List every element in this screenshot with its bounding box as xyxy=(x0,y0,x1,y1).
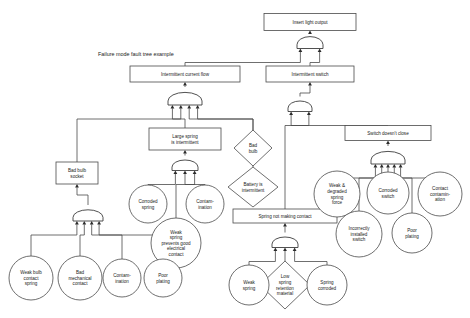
logic-gate-g-isw[interactable] xyxy=(288,101,312,112)
svg-text:Corroded: Corroded xyxy=(378,188,398,193)
fault-node-lsi[interactable]: Large springis intermittent xyxy=(149,128,221,150)
svg-text:Intermittent switch: Intermittent switch xyxy=(291,72,328,77)
arrow-head xyxy=(273,248,277,251)
and-gate-shape xyxy=(288,101,312,112)
fault-node-contactcont[interactable]: Contactcontamin-ation xyxy=(418,172,462,216)
arrow-head xyxy=(183,150,187,153)
arrow-head xyxy=(318,49,322,52)
arrow-head xyxy=(399,164,403,167)
edge-weakspr2-to-g-snmc xyxy=(249,248,277,266)
lsi-label: Large springis intermittent xyxy=(171,134,199,145)
fault-node-icf[interactable]: Intermittent current flow xyxy=(130,66,240,82)
svg-text:Incorrectly: Incorrectly xyxy=(348,226,370,231)
edge-bmc-to-g-bbs xyxy=(80,221,86,256)
svg-text:Intermittent current flow: Intermittent current flow xyxy=(161,72,210,77)
arrow-head xyxy=(392,164,396,167)
weakspr2-label: Weakspring xyxy=(243,280,256,291)
arrow-head xyxy=(183,82,187,85)
fault-node-sdc[interactable]: Switch doesn't close xyxy=(345,126,431,141)
fault-node-wdsf[interactable]: Weak &degradedspringforce xyxy=(314,171,360,217)
logic-gate-g-icf[interactable] xyxy=(168,92,202,105)
svg-text:corroded: corroded xyxy=(318,286,337,291)
edge-corrspring-to-g-lsi xyxy=(148,171,177,186)
fault-node-bbs[interactable]: Bad bulbsocket xyxy=(56,162,98,184)
svg-text:Battery is: Battery is xyxy=(243,182,263,187)
fault-node-bmc[interactable]: Badmechanicalcontact xyxy=(58,256,102,300)
fault-node-weakspr2[interactable]: Weakspring xyxy=(229,265,269,305)
arrow-head xyxy=(283,248,287,251)
and-gate-shape xyxy=(172,160,198,171)
svg-text:Insert light output: Insert light output xyxy=(292,20,328,25)
arrow-head xyxy=(82,221,86,224)
fault-node-incorrsw[interactable]: Incorrectlyinstalledswitch xyxy=(336,211,382,257)
fault-node-poorplat1[interactable]: Poorplating xyxy=(144,259,182,297)
connector-line xyxy=(31,224,77,256)
fault-node-wbcs[interactable]: Weak bulbcontactspring xyxy=(9,256,53,300)
svg-text:intermittent: intermittent xyxy=(242,188,265,193)
logic-gate-g-bbs[interactable] xyxy=(73,210,103,221)
svg-text:Weak: Weak xyxy=(170,230,182,235)
fault-node-top[interactable]: Insert light output xyxy=(264,14,356,31)
svg-text:spring: spring xyxy=(142,205,155,210)
svg-text:switch: switch xyxy=(382,194,395,199)
logic-gate-g-lsi[interactable] xyxy=(172,160,198,171)
arrow-head xyxy=(179,105,183,108)
svg-text:Bad: Bad xyxy=(249,143,258,148)
svg-text:plating: plating xyxy=(405,234,419,239)
edge-g-lsi-to-lsi xyxy=(183,150,187,156)
isw-label: Intermittent switch xyxy=(291,72,328,77)
contam2-label: Contam-ination xyxy=(113,273,131,284)
connector-line xyxy=(77,187,88,205)
arrow-head xyxy=(308,31,312,34)
svg-text:Spring: Spring xyxy=(320,280,334,285)
fault-node-contam2[interactable]: Contam-ination xyxy=(103,259,141,297)
and-gate-shape xyxy=(297,37,323,49)
edge-g-snmc-to-snmc xyxy=(283,223,287,233)
svg-text:degraded: degraded xyxy=(327,189,347,194)
fault-node-poorplat2[interactable]: Poorplating xyxy=(392,213,432,253)
fault-node-batt[interactable]: Battery isintermittent xyxy=(228,167,278,207)
and-gate-shape xyxy=(73,210,103,221)
top-label: Insert light output xyxy=(292,20,328,25)
fault-node-sprcorr[interactable]: Springcorroded xyxy=(307,265,347,305)
connector-line xyxy=(291,115,388,126)
fault-node-corrsw[interactable]: Corrodedswitch xyxy=(367,172,409,214)
fault-node-corrspring[interactable]: Corrodedspring xyxy=(129,185,167,223)
arrow-head xyxy=(183,171,187,174)
connector-line xyxy=(172,108,185,128)
edge-badbulb-to-g-icf xyxy=(187,105,253,130)
svg-text:spring: spring xyxy=(279,280,292,285)
svg-text:ation: ation xyxy=(435,197,445,202)
connector-line xyxy=(80,224,84,256)
edge-lowspring-to-g-snmc xyxy=(283,248,287,262)
logic-gate-g-top[interactable] xyxy=(297,37,323,49)
arrow-head xyxy=(380,164,384,167)
arrow-head xyxy=(196,105,200,108)
fault-tree-canvas: Insert light outputIntermittent current … xyxy=(0,0,470,318)
connector-line xyxy=(295,251,327,265)
svg-text:installed: installed xyxy=(351,232,368,237)
connector-line xyxy=(310,52,320,66)
arrow-head xyxy=(90,221,94,224)
svg-text:Large spring: Large spring xyxy=(172,134,198,139)
arrow-head xyxy=(173,171,177,174)
connector-line xyxy=(148,174,175,185)
fault-node-badbulb[interactable]: Badbulb xyxy=(234,130,272,166)
connector-line xyxy=(300,85,310,96)
svg-text:electrical: electrical xyxy=(167,246,185,251)
svg-text:Weak &: Weak & xyxy=(329,183,345,188)
fault-node-contam1[interactable]: Contam-ination xyxy=(186,185,224,223)
svg-text:socket: socket xyxy=(70,174,84,179)
badbulb-label: Badbulb xyxy=(249,143,258,154)
logic-gate-g-snmc[interactable] xyxy=(272,237,298,248)
contam1-label: Contam-ination xyxy=(196,199,214,210)
diagram-title: Failure mode fault tree example xyxy=(98,51,174,57)
svg-text:spring: spring xyxy=(25,281,38,286)
fault-node-isw[interactable]: Intermittent switch xyxy=(266,66,354,82)
arrow-head xyxy=(298,49,302,52)
svg-text:is intermittent: is intermittent xyxy=(171,140,199,145)
edge-sdc-to-g-isw xyxy=(289,112,388,126)
logic-gate-g-sdc[interactable] xyxy=(371,151,405,164)
and-gate-shape xyxy=(272,237,298,248)
svg-text:Weak: Weak xyxy=(243,280,255,285)
